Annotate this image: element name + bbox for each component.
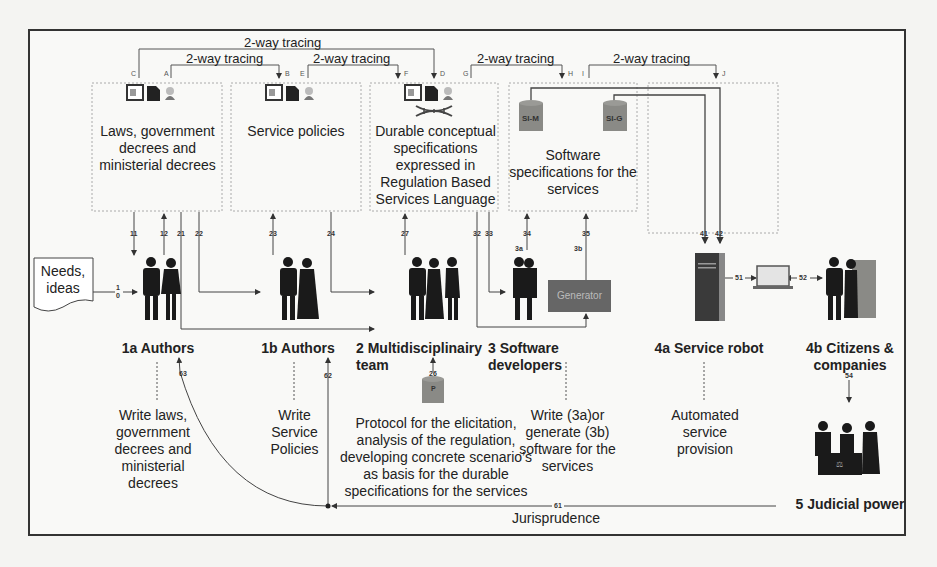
tracing-letter-e: E (300, 70, 305, 77)
tracing-letter-a: A (164, 70, 169, 77)
write-policies-line-2: Service (262, 424, 327, 441)
db-sig-label: SI-G (606, 114, 622, 123)
tag-3b: 3b (574, 245, 582, 252)
tracing-letter-g: G (463, 70, 468, 77)
write-laws-line-3: decrees and (108, 441, 198, 458)
laptop-icon (753, 265, 793, 291)
write-laws-line-2: government (108, 424, 198, 441)
tag-3a: 3a (515, 245, 523, 252)
developers-3a-silhouette (510, 256, 540, 322)
generator-box: Generator (548, 280, 611, 312)
activity-protocol: Protocol for the elicitation, analysis o… (336, 415, 536, 500)
tracing-letter-d: D (440, 70, 445, 77)
software-line-1: Software (509, 147, 637, 164)
protocol-line-1: Protocol for the elicitation, (336, 415, 536, 432)
needs-text: Needs, ideas (33, 263, 93, 297)
flow-num-33: 33 (485, 230, 493, 237)
flow-num-32: 32 (473, 230, 481, 237)
flow-num-54: 54 (845, 372, 853, 379)
authors-1b-silhouette (276, 256, 322, 322)
flow-num-41: 41 (700, 230, 708, 237)
flow-num-27: 27 (401, 230, 409, 237)
laws-line-2: decrees and (95, 140, 220, 157)
tracing-letter-f: F (404, 70, 408, 77)
server-tower-icon (695, 253, 725, 321)
flow-num-22: 22 (195, 230, 203, 237)
db-sim-label: SI-M (522, 114, 539, 123)
tracing-label-4: 2-way tracing (613, 51, 690, 66)
tracing-label-2: 2-way tracing (313, 51, 390, 66)
flow-num-35: 35 (582, 230, 590, 237)
durable-line-1: Durable conceptual (368, 123, 503, 140)
citizens-companies-silhouette (822, 256, 880, 322)
flow-num-21: 21 (177, 230, 185, 237)
document-icons-laws (126, 83, 186, 103)
document-icons-policies (265, 83, 325, 103)
generator-label: Generator (557, 290, 602, 301)
automated-line-2: service (660, 424, 750, 441)
write-laws-line-5: decrees (108, 475, 198, 492)
activity-write-laws: Write laws, government decrees and minis… (108, 407, 198, 492)
tracing-label-1: 2-way tracing (186, 51, 263, 66)
flow-num-61: 61 (552, 502, 564, 509)
tracing-letter-i: I (582, 70, 584, 77)
write-policies-line-3: Policies (262, 441, 327, 458)
flow-num-42: 42 (715, 230, 723, 237)
protocol-line-2: analysis of the regulation, (336, 432, 536, 449)
actor-5-judicial: 5 Judicial power (790, 496, 910, 513)
flow-num-52: 52 (799, 274, 807, 281)
flow-num-51: 51 (735, 274, 743, 281)
protocol-line-3: developing concrete scenario’s (336, 449, 536, 466)
tracing-letter-b: B (285, 70, 290, 77)
dna-icon (414, 104, 454, 118)
durable-line-5: Services Language (368, 191, 503, 208)
flow-num-10-bottom: 0 (116, 292, 120, 299)
tracing-letter-j: J (722, 70, 726, 77)
activity-write-policies: Write Service Policies (262, 407, 327, 458)
flow-num-24: 24 (327, 230, 335, 237)
protocol-line-4: as basis for the durable (336, 466, 536, 483)
judicial-power-silhouette: ⚖ (812, 420, 882, 476)
write-policies-line-1: Write (262, 407, 327, 424)
durable-line-4: Regulation Based (368, 174, 503, 191)
flow-num-62: 62 (324, 372, 332, 379)
tracing-letter-c: C (131, 70, 136, 77)
box-durable-text: Durable conceptual specifications expres… (368, 123, 503, 208)
software-line-3: services (509, 181, 637, 198)
document-icons-durable (404, 83, 464, 103)
flow-num-11: 11 (130, 230, 137, 237)
actor-1a-authors: 1a Authors (118, 340, 198, 357)
flow-num-10-top: 1 (116, 284, 120, 291)
activity-automated: Automated service provision (660, 407, 750, 458)
actor-3-developers: 3 Software developers (488, 340, 628, 374)
flow-num-26: 26 (429, 370, 437, 377)
tracing-label-3: 2-way tracing (477, 51, 554, 66)
activity-jurisprudence: Jurisprudence (496, 510, 616, 527)
automated-line-1: Automated (660, 407, 750, 424)
actor-4a-robot: 4a Service robot (654, 340, 764, 357)
automated-line-3: provision (660, 441, 750, 458)
durable-line-2: specifications (368, 140, 503, 157)
write-software-line-2: generate (3b) (510, 424, 625, 441)
flow-num-12: 12 (160, 230, 168, 237)
protocol-db-label: P (431, 385, 436, 392)
write-laws-line-4: ministerial (108, 458, 198, 475)
tracing-label-outer: 2-way tracing (244, 35, 321, 50)
svg-text:⚖: ⚖ (836, 460, 843, 469)
durable-line-3: expressed in (368, 157, 503, 174)
needs-line-1: Needs, (33, 263, 93, 280)
laws-line-3: ministerial decrees (95, 157, 220, 174)
box-software-text: Software specifications for the services (509, 147, 637, 198)
actor-4b-citizens: 4b Citizens & companies (800, 340, 900, 374)
team-2-silhouette (405, 256, 465, 322)
box-laws-text: Laws, government decrees and ministerial… (95, 123, 220, 174)
laws-line-1: Laws, government (95, 123, 220, 140)
flow-num-23: 23 (269, 230, 277, 237)
write-software-line-1: Write (3a)or (510, 407, 625, 424)
flow-num-63: 63 (179, 370, 187, 377)
authors-1a-silhouette (138, 256, 188, 322)
flow-num-34: 34 (523, 230, 531, 237)
write-software-line-4: services (510, 458, 625, 475)
write-laws-line-1: Write laws, (108, 407, 198, 424)
software-line-2: specifications for the (509, 164, 637, 181)
